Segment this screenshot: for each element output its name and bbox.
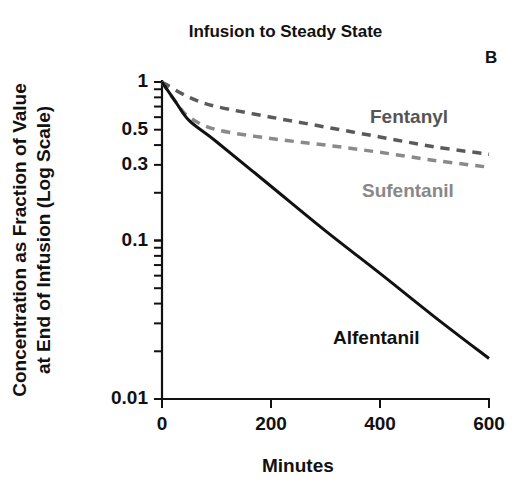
plot-area <box>0 0 531 498</box>
series-label-fentanyl: Fentanyl <box>370 106 448 128</box>
series-label-alfentanil: Alfentanil <box>333 327 420 349</box>
series-label-sufentanil: Sufentanil <box>362 180 454 202</box>
